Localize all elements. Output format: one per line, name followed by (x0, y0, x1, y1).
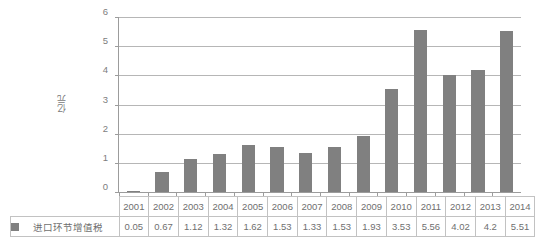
y-axis-tick-1: 1 (103, 153, 108, 163)
bar-slot-2012 (435, 17, 464, 192)
table-value-2005: 1.62 (238, 217, 268, 237)
bar-slot-2011 (406, 17, 435, 192)
table-year-2008: 2008 (327, 197, 357, 217)
table-value-2002: 0.67 (149, 217, 179, 237)
table-row-values: 进口环节增值税 0.050.671.121.321.621.531.331.53… (11, 217, 535, 237)
bar-2005[interactable] (242, 145, 255, 192)
table-corner-cell (11, 197, 120, 217)
bar-2006[interactable] (270, 147, 283, 192)
table-year-2006: 2006 (268, 197, 298, 217)
bar-slot-2003 (176, 17, 205, 192)
y-axis-tick-labels: 0123456 (92, 12, 114, 192)
bar-slot-2008 (320, 17, 349, 192)
table-year-2013: 2013 (475, 197, 505, 217)
table-value-2010: 3.53 (386, 217, 416, 237)
bar-slot-2010 (377, 17, 406, 192)
bar-2013[interactable] (471, 70, 484, 193)
bar-slot-2006 (263, 17, 292, 192)
bar-2014[interactable] (500, 31, 513, 192)
table-year-2001: 2001 (119, 197, 149, 217)
plot-area (118, 17, 520, 192)
bar-2002[interactable] (155, 172, 168, 192)
table-year-2003: 2003 (178, 197, 208, 217)
y-axis-tick-2: 2 (103, 124, 108, 134)
table-value-2009: 1.93 (357, 217, 387, 237)
table-year-2010: 2010 (386, 197, 416, 217)
bar-slot-2004 (205, 17, 234, 192)
y-axis-tick-0: 0 (103, 182, 108, 192)
table-value-2011: 5.56 (416, 217, 446, 237)
bar-2011[interactable] (414, 30, 427, 192)
y-axis-title: 亿元 (56, 84, 70, 124)
table-value-2014: 5.51 (505, 217, 535, 237)
table-year-2005: 2005 (238, 197, 268, 217)
bar-2009[interactable] (357, 136, 370, 192)
table-year-2009: 2009 (357, 197, 387, 217)
table-year-2011: 2011 (416, 197, 446, 217)
y-axis-tick-5: 5 (103, 36, 108, 46)
y-axis-tick-3: 3 (103, 95, 108, 105)
table-value-2006: 1.53 (268, 217, 298, 237)
bar-slot-2001 (119, 17, 148, 192)
table-value-2003: 1.12 (178, 217, 208, 237)
bar-2003[interactable] (184, 159, 197, 192)
bar-2007[interactable] (299, 153, 312, 192)
bar-slot-2013 (464, 17, 493, 192)
legend-square-icon (11, 223, 19, 231)
bar-2010[interactable] (385, 89, 398, 192)
bar-2001[interactable] (127, 191, 140, 192)
y-axis-tick-4: 4 (103, 65, 108, 75)
table-value-2001: 0.05 (119, 217, 149, 237)
bar-series-group (119, 17, 521, 192)
table-value-2007: 1.33 (297, 217, 327, 237)
legend-cell: 进口环节增值税 (11, 217, 120, 237)
bar-slot-2002 (148, 17, 177, 192)
bar-2012[interactable] (443, 75, 456, 192)
table-year-2012: 2012 (446, 197, 476, 217)
table-year-2014: 2014 (505, 197, 535, 217)
table-year-2002: 2002 (149, 197, 179, 217)
bar-slot-2009 (349, 17, 378, 192)
table-year-2004: 2004 (208, 197, 238, 217)
table-value-2008: 1.53 (327, 217, 357, 237)
bar-2008[interactable] (328, 147, 341, 192)
legend-series-label: 进口环节增值税 (33, 220, 103, 234)
bar-slot-2005 (234, 17, 263, 192)
bar-slot-2014 (492, 17, 521, 192)
table-value-2004: 1.32 (208, 217, 238, 237)
data-table: 2001200220032004200520062007200820092010… (10, 196, 535, 237)
table-value-2012: 4.02 (446, 217, 476, 237)
table-value-2013: 4.2 (475, 217, 505, 237)
bar-slot-2007 (291, 17, 320, 192)
y-axis-tick-6: 6 (103, 7, 108, 17)
table-year-2007: 2007 (297, 197, 327, 217)
bar-2004[interactable] (213, 154, 226, 193)
table-row-years: 2001200220032004200520062007200820092010… (11, 197, 535, 217)
